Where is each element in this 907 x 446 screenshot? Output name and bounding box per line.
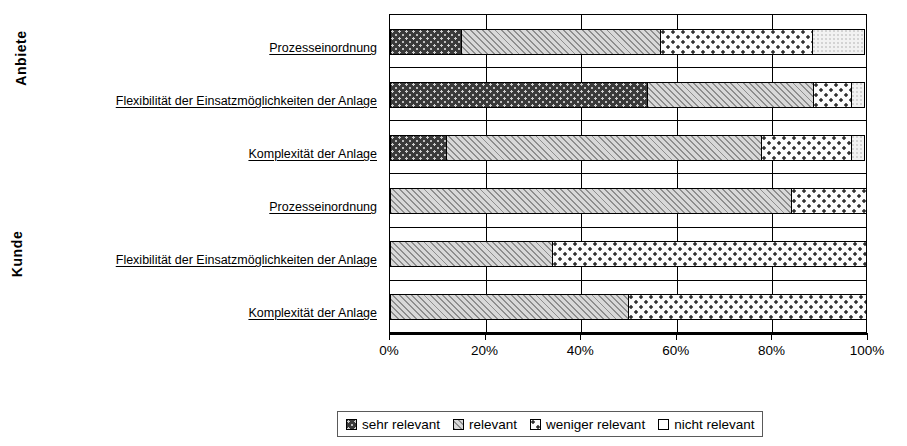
bar-row-4[interactable] (390, 241, 868, 267)
category-label-0: Prozesseinordnung (269, 41, 377, 55)
x-tick-40% (580, 333, 581, 340)
x-tick-label-80%: 80% (758, 343, 785, 358)
bar-segment-1-row-3[interactable] (390, 188, 792, 214)
legend-swatch-icon-2 (530, 419, 541, 430)
legend-item-2[interactable]: weniger relevant (530, 417, 645, 432)
bar-segment-3-row-2[interactable] (851, 135, 865, 161)
x-tick-label-0%: 0% (379, 343, 399, 358)
x-tick-label-60%: 60% (662, 343, 689, 358)
category-label-3: Prozesseinordnung (269, 200, 377, 214)
x-axis: 0%20%40%60%80%100% (389, 333, 867, 335)
x-tick-label-40%: 40% (567, 343, 594, 358)
category-label-5: Komplexität der Anlage (248, 306, 377, 320)
bar-segment-1-row-5[interactable] (390, 294, 629, 320)
bar-row-3[interactable] (390, 188, 868, 214)
legend-swatch-icon-0 (346, 419, 357, 430)
x-tick-80% (771, 333, 772, 340)
bar-row-1[interactable] (390, 82, 868, 108)
bar-segment-2-row-4[interactable] (552, 241, 867, 267)
bar-segment-1-row-4[interactable] (390, 241, 553, 267)
bar-row-5[interactable] (390, 294, 868, 320)
bar-segment-2-row-2[interactable] (761, 135, 852, 161)
category-axis: Prozesseinordnung Flexibilität der Einsa… (0, 14, 381, 333)
x-tick-100% (867, 333, 868, 340)
bar-segment-0-row-2[interactable] (390, 135, 447, 161)
bar-segment-2-row-3[interactable] (791, 188, 867, 214)
x-tick-60% (676, 333, 677, 340)
legend-label-0: sehr relevant (362, 417, 440, 432)
legend-swatch-icon-3 (658, 419, 669, 430)
x-tick-label-100%: 100% (850, 343, 885, 358)
bar-segment-2-row-0[interactable] (660, 29, 813, 55)
bar-segment-1-row-0[interactable] (461, 29, 662, 55)
x-tick-20% (485, 333, 486, 340)
bar-segment-0-row-1[interactable] (390, 82, 648, 108)
bar-row-0[interactable] (390, 29, 868, 55)
legend-item-1[interactable]: relevant (453, 417, 517, 432)
bar-segment-1-row-2[interactable] (446, 135, 761, 161)
x-tick-label-20%: 20% (471, 343, 498, 358)
x-tick-0% (389, 333, 390, 340)
bar-segment-3-row-1[interactable] (851, 82, 865, 108)
category-label-2: Komplexität der Anlage (248, 147, 377, 161)
bar-row-2[interactable] (390, 135, 868, 161)
bar-segment-1-row-1[interactable] (647, 82, 814, 108)
legend-label-2: weniger relevant (546, 417, 645, 432)
bar-segment-2-row-1[interactable] (813, 82, 851, 108)
legend-label-3: nicht relevant (674, 417, 754, 432)
legend-item-3[interactable]: nicht relevant (658, 417, 754, 432)
legend-item-0[interactable]: sehr relevant (346, 417, 440, 432)
category-label-1: Flexibilität der Einsatzmöglichkeiten de… (116, 94, 377, 108)
bar-segment-0-row-0[interactable] (390, 29, 462, 55)
chart-legend: sehr relevantrelevantweniger relevantnic… (337, 411, 763, 437)
plot-area (389, 14, 867, 333)
legend-swatch-icon-1 (453, 419, 464, 430)
category-label-4: Flexibilität der Einsatzmöglichkeiten de… (116, 253, 377, 267)
legend-label-1: relevant (469, 417, 517, 432)
bar-segment-2-row-5[interactable] (628, 294, 867, 320)
bar-segment-3-row-0[interactable] (812, 29, 865, 55)
